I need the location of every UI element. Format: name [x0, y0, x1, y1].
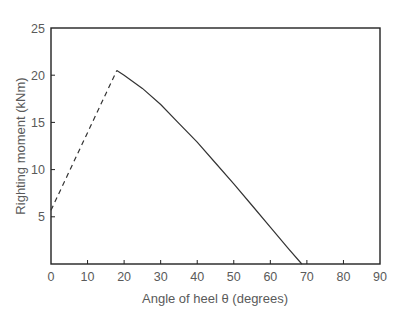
righting-moment-curve [117, 71, 302, 265]
x-tick-label: 20 [117, 270, 131, 284]
y-tick-label: 5 [38, 210, 45, 224]
y-tick-label: 15 [31, 116, 45, 130]
y-axis-label: Righting moment (kNm) [13, 77, 28, 214]
x-tick-label: 80 [336, 270, 350, 284]
dashed-extrapolation-line [51, 71, 117, 211]
x-tick-label: 60 [263, 270, 277, 284]
x-tick-label: 90 [373, 270, 387, 284]
plot-border [51, 28, 380, 264]
plot-frame [51, 28, 380, 264]
y-tick-label: 20 [31, 69, 45, 83]
x-tick-label: 30 [154, 270, 168, 284]
x-axis-label: Angle of heel θ (degrees) [142, 291, 288, 306]
x-tick-label: 40 [190, 270, 204, 284]
x-tick-label: 70 [300, 270, 314, 284]
x-tick-label: 10 [81, 270, 95, 284]
data-series [51, 71, 302, 265]
y-tick-label: 25 [31, 22, 45, 36]
x-tick-label: 0 [48, 270, 55, 284]
y-tick-label: 10 [31, 163, 45, 177]
x-tick-label: 50 [227, 270, 241, 284]
righting-moment-chart: 0102030405060708090 510152025 Angle of h… [0, 0, 409, 322]
